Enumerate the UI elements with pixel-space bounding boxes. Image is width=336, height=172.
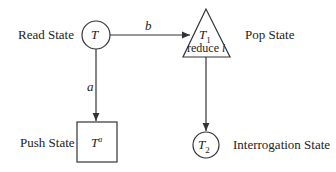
pop-node-text: reduce i <box>187 41 225 56</box>
interrogation-node-symbol: T2 <box>198 137 210 155</box>
push-state-label: Push State <box>20 135 75 151</box>
interrogation-state-label: Interrogation State <box>233 137 330 153</box>
read-node-symbol: T <box>91 27 98 43</box>
reduce-variable: i <box>222 41 225 55</box>
push-node-symbol: Ta <box>91 135 102 151</box>
read-state-label: Read State <box>18 27 74 43</box>
edge-a-label: a <box>87 79 94 95</box>
edge-b-label: b <box>145 18 152 34</box>
pop-state-label: Pop State <box>245 27 294 43</box>
push-superscript: a <box>98 135 102 144</box>
interrogation-subscript: 2 <box>205 145 210 155</box>
